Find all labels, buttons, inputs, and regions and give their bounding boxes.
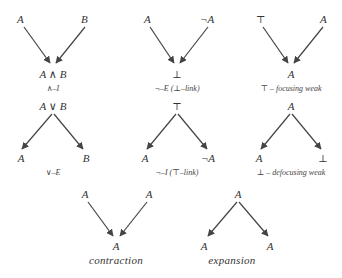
node-bottom-right: ¬A <box>201 152 215 164</box>
node-top-left: A <box>16 13 24 25</box>
rule-label: ¬–I (⊤–link) <box>156 168 199 177</box>
edge-arrow <box>261 114 290 149</box>
node-bottom: A ∧ B <box>39 68 67 80</box>
node-top-left: A <box>143 13 151 25</box>
node-top: A <box>287 100 295 112</box>
node-bottom: A <box>287 68 295 80</box>
rule-label: ⊥ – defocusing weak <box>257 168 326 177</box>
node-top-right: B <box>81 13 88 25</box>
edge-arrow <box>208 202 237 236</box>
diagram-bot-defocusing-weak: A A ⊥ ⊥ – defocusing weak <box>255 100 328 177</box>
edge-arrow <box>56 27 85 63</box>
diagram-top-focusing-weak: ⊤ A A ⊤ – focusing weak <box>256 13 327 93</box>
node-bottom-right: A <box>266 240 274 252</box>
node-top-left: ⊤ <box>256 14 265 25</box>
diagram-not-intro: ⊤ A ¬A ¬–I (⊤–link) <box>141 101 216 177</box>
edge-arrow <box>263 27 288 63</box>
edge-arrow <box>178 114 207 149</box>
node-top-right: A <box>319 13 327 25</box>
rule-label: ∨–E <box>46 168 61 177</box>
node-bottom-left: A <box>255 152 263 164</box>
node-bottom-right: B <box>83 152 90 164</box>
diagram-or-elim: A ∨ B A B ∨–E <box>17 100 90 177</box>
node-bottom: A <box>112 240 120 252</box>
rule-label: ¬–E (⊥–link) <box>154 84 199 93</box>
node-top: ⊤ <box>172 101 181 112</box>
edge-arrow <box>147 114 176 149</box>
edge-arrow <box>239 202 268 236</box>
node-top-left: A <box>81 188 89 200</box>
node-bottom: ⊥ <box>172 69 181 80</box>
node-bottom-left: A <box>141 152 149 164</box>
diagram-contraction: A A A contraction <box>81 188 153 266</box>
diagram-and-intro: A B A ∧ B ∧–I <box>16 13 88 93</box>
edge-arrow <box>120 202 147 236</box>
rule-label: ∧–I <box>47 84 60 93</box>
edge-arrow <box>180 27 208 63</box>
edge-arrow <box>54 114 83 149</box>
edge-arrow <box>292 114 321 149</box>
node-top-right: ¬A <box>200 13 214 25</box>
rule-label: expansion <box>208 254 256 266</box>
edge-arrow <box>294 27 323 63</box>
diagram-expansion: A A A expansion <box>200 188 274 266</box>
node-top-right: A <box>145 188 153 200</box>
edge-arrow <box>24 27 50 63</box>
rule-label: ⊤ – focusing weak <box>260 84 322 93</box>
node-top: A <box>234 188 242 200</box>
edge-arrow <box>88 202 113 236</box>
node-bottom-right: ⊥ <box>318 153 327 164</box>
diagram-not-elim: A ¬A ⊥ ¬–E (⊥–link) <box>143 13 214 93</box>
node-bottom-left: A <box>17 152 25 164</box>
inference-rules-diagram: A B A ∧ B ∧–I A ¬A ⊥ ¬–E (⊥–link) ⊤ A A … <box>0 0 342 278</box>
rule-label: contraction <box>89 254 143 266</box>
edge-arrow <box>150 27 174 63</box>
node-top: A ∨ B <box>39 100 67 112</box>
node-bottom-left: A <box>200 240 208 252</box>
edge-arrow <box>22 114 52 149</box>
